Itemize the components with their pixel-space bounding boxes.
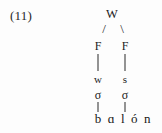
tree-node-word-root: W xyxy=(106,8,118,20)
tree-node-weak-left: w xyxy=(94,73,102,85)
tree-node-syllable-left: σ xyxy=(95,89,101,101)
tree-node-foot-right: F xyxy=(122,40,129,52)
tree-node-foot-left: F xyxy=(95,40,102,52)
association-line-foot-right xyxy=(125,54,126,71)
diagram-page: (11) W / \ F F w s σ σ b ɑ l ó n xyxy=(0,0,162,133)
example-number-label: (11) xyxy=(10,8,32,24)
branch-left-icon: / xyxy=(102,22,106,35)
association-line-foot-left xyxy=(98,54,99,71)
branch-right-icon: \ xyxy=(120,22,124,35)
tree-node-strong-right: s xyxy=(123,73,127,85)
metrical-tree: W / \ F F w s σ σ b ɑ l ó n xyxy=(85,0,162,133)
tree-node-syllable-right: σ xyxy=(122,89,128,101)
surface-form-text: b ɑ l ó n xyxy=(85,112,162,126)
